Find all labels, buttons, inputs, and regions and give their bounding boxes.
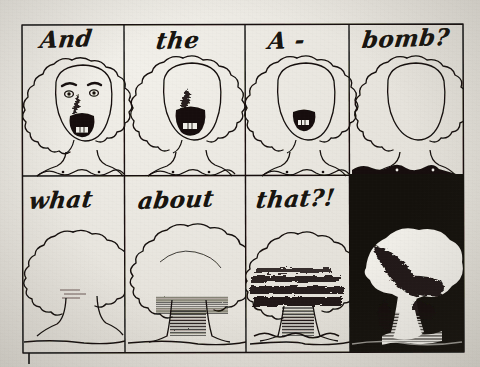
caption-panel-6: about (137, 184, 216, 214)
panel-8-explosion (350, 176, 464, 352)
caption-panel-1: And (39, 24, 94, 53)
comic-strip-artwork (0, 0, 480, 367)
panel-4-figure (355, 56, 468, 176)
caption-panel-2: the (155, 25, 201, 54)
caption-panel-3: A - (267, 26, 307, 54)
panel-6-tree (128, 224, 256, 345)
caption-panel-7: that?! (255, 183, 337, 213)
caption-panel-4: bomb? (361, 23, 452, 53)
comic-page: And the A - bomb? what about that?! (0, 0, 480, 367)
panel-1-figure (23, 58, 132, 176)
panel-7-mushroom (245, 232, 360, 345)
panel-4-black-chest (350, 165, 464, 177)
panel-5-tree (24, 230, 133, 343)
caption-panel-5: what (28, 185, 95, 214)
panel-2-figure (131, 56, 245, 176)
panel-3-figure (245, 56, 358, 176)
